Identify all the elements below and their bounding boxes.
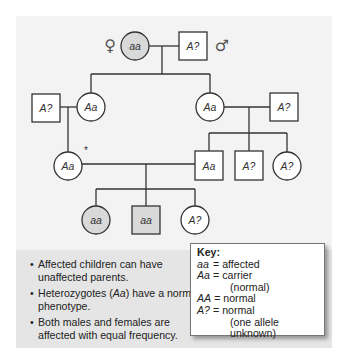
genotype-label: A? xyxy=(277,101,291,113)
key-subnote: (one allele unknown) xyxy=(197,317,318,340)
female-symbol-icon: ♀ xyxy=(104,36,116,55)
individual-II-3: Aa xyxy=(196,93,224,121)
genotype-label: Aa xyxy=(61,160,75,172)
genotype-label: Aa xyxy=(84,101,98,113)
individual-III-1: Aa * xyxy=(54,145,88,180)
individual-I-1: aa xyxy=(121,32,149,60)
note-text: Both males and females are affected with… xyxy=(38,316,178,341)
individual-II-2: Aa xyxy=(77,93,105,121)
individual-I-2: A? xyxy=(179,32,207,60)
bullet-icon: • xyxy=(30,258,34,271)
pedigree-lines xyxy=(57,46,287,206)
bullet-icon: • xyxy=(30,316,34,329)
individual-III-2: Aa xyxy=(195,151,223,180)
individual-II-4: A? xyxy=(270,93,298,121)
individual-III-3: A? xyxy=(235,151,263,180)
note-text: Affected children can have unaffected pa… xyxy=(38,258,163,283)
key-genotype: A? xyxy=(197,305,210,317)
genotype-label: A? xyxy=(188,214,202,226)
key-genotype: Aa xyxy=(197,270,210,282)
pedigree-chart: ♀ ♂ aa A? A? Aa Aa A? xyxy=(0,0,348,250)
individual-IV-3: A? xyxy=(181,206,209,234)
genotype-label: A? xyxy=(39,102,53,114)
individual-IV-1: aa xyxy=(82,206,110,234)
genotype-label: aa xyxy=(129,40,141,52)
note-item: • Heterozygotes (Aa) have a normal pheno… xyxy=(30,287,200,312)
genotype-label: Aa xyxy=(202,160,216,172)
genotype-label: A? xyxy=(186,40,200,52)
key-box: Key: aa = affected Aa = carrier (normal)… xyxy=(190,243,325,336)
bullet-icon: • xyxy=(30,287,34,300)
key-title: Key: xyxy=(197,247,318,259)
male-symbol-icon: ♂ xyxy=(215,36,229,55)
note-italic-text: Aa xyxy=(113,287,126,299)
note-text: Heterozygotes ( xyxy=(38,287,113,299)
genotype-label: A? xyxy=(280,160,294,172)
note-item: • Both males and females are affected wi… xyxy=(30,316,200,341)
genotype-label: aa xyxy=(90,214,102,226)
asterisk-marker: * xyxy=(84,145,88,156)
key-row: A? = normal xyxy=(197,305,318,317)
key-equals: = xyxy=(213,305,219,317)
individual-III-4: A? xyxy=(273,152,301,180)
notes-list: • Affected children can have unaffected … xyxy=(30,258,200,345)
genotype-label: A? xyxy=(242,160,256,172)
genotype-label: Aa xyxy=(203,101,217,113)
individual-IV-2: aa xyxy=(132,206,160,234)
pedigree-figure: ♀ ♂ aa A? A? Aa Aa A? xyxy=(0,0,348,360)
individual-II-1: A? xyxy=(32,94,60,122)
key-meaning: normal xyxy=(222,305,254,317)
genotype-label: aa xyxy=(140,214,152,226)
key-equals: = xyxy=(213,270,219,282)
note-item: • Affected children can have unaffected … xyxy=(30,258,200,283)
